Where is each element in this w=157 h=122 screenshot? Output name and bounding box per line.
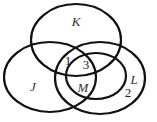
region-value-2: 2: [125, 85, 132, 100]
set-j-label: J: [30, 79, 37, 94]
set-k-label: K: [71, 14, 82, 29]
region-value-1: 1: [65, 53, 72, 68]
venn-diagram: K J L M 1 3 2: [0, 0, 157, 122]
set-j-ellipse: [4, 42, 96, 112]
region-value-3: 3: [83, 57, 90, 72]
set-m-label: M: [77, 80, 90, 95]
